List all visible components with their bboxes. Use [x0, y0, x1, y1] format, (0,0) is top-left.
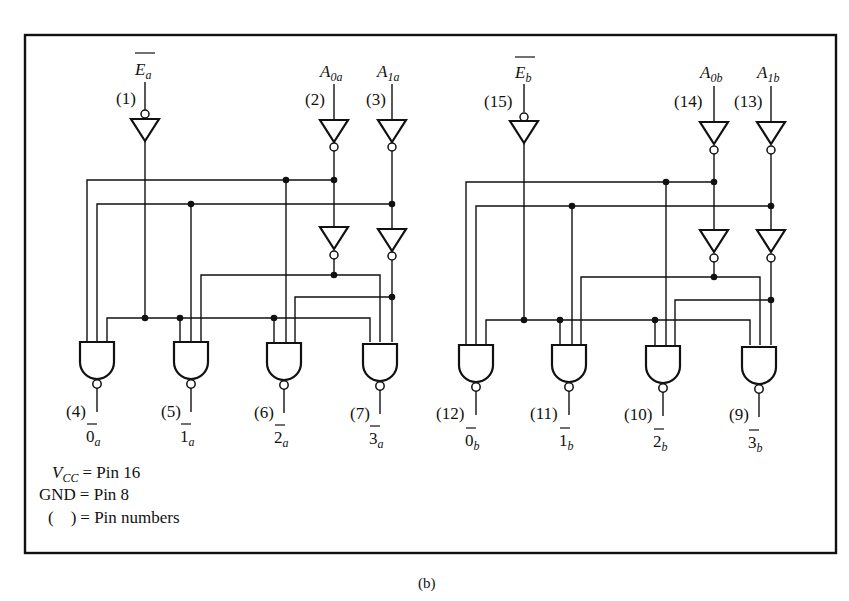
legend-gnd: GND= Pin 8: [39, 485, 129, 504]
output-1a-label: 1a: [180, 427, 195, 449]
legend: VCC= Pin 16 GND= Pin 8 ( )= Pin numbers: [39, 463, 180, 527]
enable-a-label: Ea: [134, 60, 151, 82]
output-3b-label: 3b: [748, 433, 763, 455]
pin-label: (5): [161, 402, 181, 421]
output-2a-label: 2a: [274, 428, 289, 450]
decoder-section-a: [80, 82, 406, 414]
decoder-circuit-diagram: Ea (1) A0a (2) A1a (3) (4) (5) (6) (7) 0…: [0, 0, 849, 601]
output-0b-label: 0b: [465, 431, 480, 453]
output-1b-label: 1b: [559, 431, 574, 453]
pin-label: (13): [734, 92, 762, 111]
nand-gate-3a: [363, 344, 397, 390]
legend-vcc: VCC= Pin 16: [52, 463, 140, 485]
nand-gate-2b: [646, 346, 680, 392]
pin-label: (14): [674, 92, 702, 111]
output-3a-label: 3a: [369, 429, 384, 451]
pin-label: (15): [484, 92, 512, 111]
pin-label: (2): [305, 90, 325, 109]
nand-gate-1b: [552, 345, 586, 391]
labels-section-a: Ea (1) A0a (2) A1a (3) (4) (5) (6) (7) 0…: [66, 53, 399, 451]
decoder-section-b: [459, 84, 785, 417]
figure-caption: (b): [418, 575, 436, 592]
legend-pins: ( )= Pin numbers: [48, 508, 180, 527]
pin-label: (12): [436, 404, 464, 423]
a0a-label: A0a: [319, 62, 342, 84]
nand-gate-2a: [267, 343, 301, 389]
pin-label: (10): [624, 405, 652, 424]
labels-section-b: Eb (15) A0b (14) A1b (13) (12) (11) (10)…: [436, 57, 779, 455]
pin-label: (9): [729, 405, 749, 424]
pin-label: (4): [66, 402, 86, 421]
nand-gate-3b: [742, 347, 776, 393]
pin-label: (3): [366, 90, 386, 109]
output-2b-label: 2b: [653, 432, 668, 454]
nand-gate-0a: [80, 342, 114, 388]
output-0a-label: 0a: [86, 427, 101, 449]
a1a-label: A1a: [376, 62, 399, 84]
pin-label: (6): [254, 403, 274, 422]
nand-gate-0b: [459, 345, 493, 391]
a0b-label: A0b: [699, 63, 722, 85]
nand-gate-1a: [174, 342, 208, 388]
a1b-label: A1b: [756, 63, 779, 85]
pin-label: (1): [116, 89, 136, 108]
pin-label: (7): [350, 404, 370, 423]
enable-b-label: Eb: [514, 63, 531, 85]
pin-label: (11): [530, 404, 558, 423]
